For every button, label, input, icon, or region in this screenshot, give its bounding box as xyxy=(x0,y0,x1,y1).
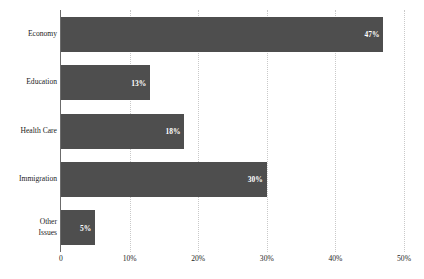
bar-row: 30% xyxy=(61,162,404,197)
x-tick-0: 0 xyxy=(59,254,63,263)
bar-value-label: 13% xyxy=(126,78,146,87)
plot-area: 47%13%18%30%5% xyxy=(61,10,404,252)
category-label-education: Education xyxy=(1,77,57,88)
bar-row: 47% xyxy=(61,17,404,52)
category-label-line: Other xyxy=(1,217,57,228)
bar-value-label: 47% xyxy=(359,30,379,39)
bar-value-label: 18% xyxy=(160,127,180,136)
y-axis-category-labels: EconomyEducationHealth CareImmigrationOt… xyxy=(0,10,57,252)
category-label-economy: Economy xyxy=(1,29,57,40)
bar-immigration[interactable] xyxy=(61,162,267,197)
x-tick-30%: 30% xyxy=(260,254,274,263)
gridline-50 xyxy=(404,10,405,252)
bar-value-label: 5% xyxy=(71,223,91,232)
x-tick-40%: 40% xyxy=(328,254,342,263)
bar-economy[interactable] xyxy=(61,17,383,52)
x-tick-10%: 10% xyxy=(123,254,137,263)
category-label-health-care: Health Care xyxy=(1,126,57,137)
bar-row: 18% xyxy=(61,114,404,149)
category-label-line: Issues xyxy=(1,228,57,239)
category-label-line: Economy xyxy=(1,29,57,40)
category-label-line: Health Care xyxy=(1,126,57,137)
bar-chart: 47%13%18%30%5% EconomyEducationHealth Ca… xyxy=(0,0,424,279)
category-label-immigration: Immigration xyxy=(1,174,57,185)
x-tick-20%: 20% xyxy=(191,254,205,263)
x-axis-tick-labels: 010%20%30%40%50% xyxy=(61,254,404,270)
x-tick-50%: 50% xyxy=(397,254,411,263)
bar-row: 5% xyxy=(61,210,404,245)
bar-row: 13% xyxy=(61,65,404,100)
category-label-other-issues: OtherIssues xyxy=(1,217,57,238)
bar-value-label: 30% xyxy=(243,175,263,184)
category-label-line: Immigration xyxy=(1,174,57,185)
category-label-line: Education xyxy=(1,77,57,88)
